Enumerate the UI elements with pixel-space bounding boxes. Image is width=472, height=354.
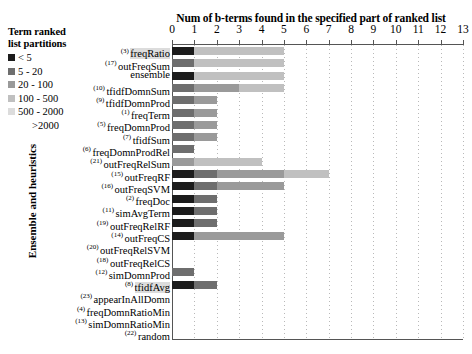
bar-segment	[194, 207, 216, 215]
y-axis-label: Ensemble and heuristics	[26, 121, 38, 281]
stacked-bar	[172, 219, 217, 227]
grid-line	[463, 45, 464, 340]
bar-row	[172, 156, 463, 168]
bar-rows	[172, 45, 463, 340]
x-tick-label: 6	[303, 23, 309, 35]
legend-swatch	[8, 68, 15, 75]
bar-segment	[194, 47, 284, 55]
y-label-index: (7)	[123, 133, 131, 141]
y-label-name: random	[138, 331, 170, 342]
bar-segment	[194, 158, 261, 166]
legend-title-line1: Term ranked	[8, 26, 66, 37]
bar-segment	[172, 133, 194, 141]
stacked-bar	[172, 72, 284, 80]
y-label-index: (18)	[97, 256, 109, 264]
x-tick-label: 2	[214, 23, 220, 35]
stacked-bar	[172, 170, 329, 178]
bar-segment	[217, 182, 284, 190]
legend-item-label: 100 - 500	[18, 93, 58, 104]
legend-item-label: 5 - 20	[18, 66, 43, 77]
x-tick-label: 9	[371, 23, 377, 35]
bar-segment	[194, 59, 284, 67]
y-label-name: ensemble	[130, 69, 170, 80]
stacked-bar	[172, 59, 284, 67]
y-tick-labels: (3)freqRatio(17)outFreqSumensemble(10)tf…	[58, 45, 170, 340]
x-tick-label: 10	[390, 23, 402, 35]
stacked-bar	[172, 96, 217, 104]
stacked-bar	[172, 145, 194, 153]
bar-segment	[172, 207, 194, 215]
bar-segment	[194, 96, 216, 104]
bar-segment	[194, 109, 216, 117]
y-label-index: (9)	[96, 96, 104, 104]
bar-segment	[194, 133, 216, 141]
stacked-bar	[172, 109, 217, 117]
stacked-bar	[172, 133, 217, 141]
stacked-bar	[172, 158, 262, 166]
bar-segment	[284, 170, 329, 178]
bar-segment	[239, 84, 284, 92]
y-label-index: (17)	[105, 59, 117, 67]
y-label-index: (11)	[103, 206, 114, 214]
bar-segment	[172, 59, 194, 67]
bar-segment	[172, 96, 194, 104]
stacked-bar	[172, 121, 217, 129]
bar-row	[172, 266, 463, 278]
stacked-bar	[172, 84, 284, 92]
y-label-index: (10)	[93, 84, 105, 92]
bar-segment	[172, 219, 194, 227]
bar-segment	[172, 281, 194, 289]
bar-segment	[172, 72, 194, 80]
legend-swatch	[8, 54, 15, 61]
x-tick-label: 4	[259, 23, 265, 35]
stacked-bar	[172, 232, 284, 240]
bar-row	[172, 119, 463, 131]
stacked-bar	[172, 195, 217, 203]
x-tick	[463, 40, 464, 45]
y-label-index: (13)	[75, 317, 87, 325]
y-tick-label: ensemble	[58, 70, 170, 81]
bar-segment	[172, 121, 194, 129]
stacked-bar	[172, 281, 217, 289]
x-tick-label: 7	[326, 23, 332, 35]
bar-row	[172, 45, 463, 57]
y-label-index: (15)	[111, 170, 123, 178]
bar-segment	[172, 109, 194, 117]
bar-segment	[172, 84, 194, 92]
bar-row	[172, 131, 463, 143]
x-tick-label: 3	[236, 23, 242, 35]
bar-segment	[217, 170, 284, 178]
bar-segment	[194, 182, 216, 190]
bar-row	[172, 70, 463, 82]
bar-segment	[194, 232, 284, 240]
bar-segment	[194, 72, 284, 80]
bar-row	[172, 315, 463, 327]
x-tick-label: 12	[435, 23, 447, 35]
bar-row	[172, 168, 463, 180]
y-label-index: (19)	[97, 219, 109, 227]
y-label-index: (6)	[83, 145, 91, 153]
x-tick-label: 11	[413, 23, 424, 35]
bar-row	[172, 143, 463, 155]
x-tick-label: 8	[348, 23, 354, 35]
bar-segment	[172, 268, 194, 276]
legend-item-label: 20 - 100	[18, 79, 53, 90]
bar-segment	[194, 170, 216, 178]
bar-segment	[172, 170, 194, 178]
bar-segment	[194, 281, 216, 289]
y-label-index: (12)	[96, 268, 108, 276]
x-tick-label: 5	[281, 23, 287, 35]
bar-row	[172, 193, 463, 205]
legend-swatch	[8, 108, 15, 115]
y-label-index: (23)	[80, 292, 92, 300]
bar-segment	[194, 84, 239, 92]
x-tick-label: 0	[169, 23, 175, 35]
bar-row	[172, 229, 463, 241]
legend-swatch	[8, 95, 15, 102]
bar-row	[172, 82, 463, 94]
bar-segment	[172, 195, 194, 203]
bar-segment	[194, 219, 216, 227]
stacked-bar	[172, 182, 284, 190]
y-label-index: (1)	[121, 108, 129, 116]
y-tick-label: (22)random	[58, 328, 170, 342]
